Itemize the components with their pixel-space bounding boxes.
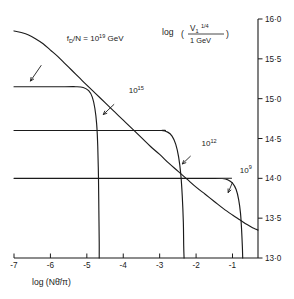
y-tick-label-15·0: 15·0: [265, 95, 282, 104]
y-axis-title-close-paren: ): [226, 29, 229, 39]
x-tick-label--2: -2: [192, 261, 200, 270]
main-curve-label-unit: GeV: [105, 34, 124, 43]
y-tick-label-14·5: 14·5: [265, 135, 282, 144]
curve-label-1e12: 1012: [202, 138, 217, 148]
x-axis-title-rest: /π): [60, 277, 71, 287]
data-curves: [14, 31, 258, 258]
y-axis-title-log: log: [162, 27, 174, 37]
figure-container: -7-6-5-4-3-2-1 13·013·514·014·515·015·51…: [0, 0, 294, 299]
x-tick-label--6: -6: [47, 261, 55, 270]
curve-label-1e12-exp: 12: [210, 138, 216, 144]
y-tick-label-14·0: 14·0: [265, 174, 282, 183]
axis-lines: [14, 19, 258, 258]
y-axis-title-v-exp: 1/4: [201, 23, 209, 29]
curve-10-9: [14, 178, 243, 258]
curve-label-1e15: 1015: [129, 85, 144, 95]
y-tick-label-15·5: 15·5: [265, 55, 282, 64]
x-axis-title-log: log (N: [32, 277, 55, 287]
main-curve-label-arrow: [30, 65, 41, 81]
x-tick-label--1: -1: [229, 261, 237, 270]
y-axis-title-denominator: 1 GeV: [190, 36, 211, 45]
x-axis-ticks: [14, 254, 233, 259]
chart-canvas: -7-6-5-4-3-2-1 13·013·514·014·515·015·51…: [0, 0, 294, 299]
y-axis-title: log ( V1 1/4 1 GeV ): [162, 23, 229, 45]
y-tick-label-13·5: 13·5: [265, 214, 282, 223]
y-tick-label-13·0: 13·0: [265, 254, 282, 263]
x-axis-tick-labels: -7-6-5-4-3-2-1: [10, 261, 236, 270]
curve-label-1e9: 109: [240, 164, 252, 174]
x-axis-title: log (Nθ̄/π): [32, 277, 71, 287]
x-tick-label--3: -3: [156, 261, 164, 270]
y-axis-tick-labels: 13·013·514·014·515·015·516·0: [265, 15, 282, 263]
curve-label-1e15-exp: 15: [138, 85, 144, 91]
annotation-arrows: 10151012109: [30, 65, 251, 192]
main-curve-label-mid: /N = 10: [73, 34, 100, 43]
x-tick-label--4: -4: [120, 261, 128, 270]
y-axis-title-open-paren: (: [181, 29, 184, 39]
curve-10-15: [14, 87, 99, 258]
x-tick-label--7: -7: [10, 261, 18, 270]
y-tick-label-16·0: 16·0: [265, 15, 282, 24]
x-tick-label--5: -5: [83, 261, 91, 270]
main-curve-label: fD/N = 1019 GeV: [67, 33, 124, 44]
curve-label-1e9-exp: 9: [249, 164, 252, 170]
y-axis-title-numerator: V1 1/4: [190, 23, 209, 34]
y-axis-ticks: [258, 19, 263, 258]
